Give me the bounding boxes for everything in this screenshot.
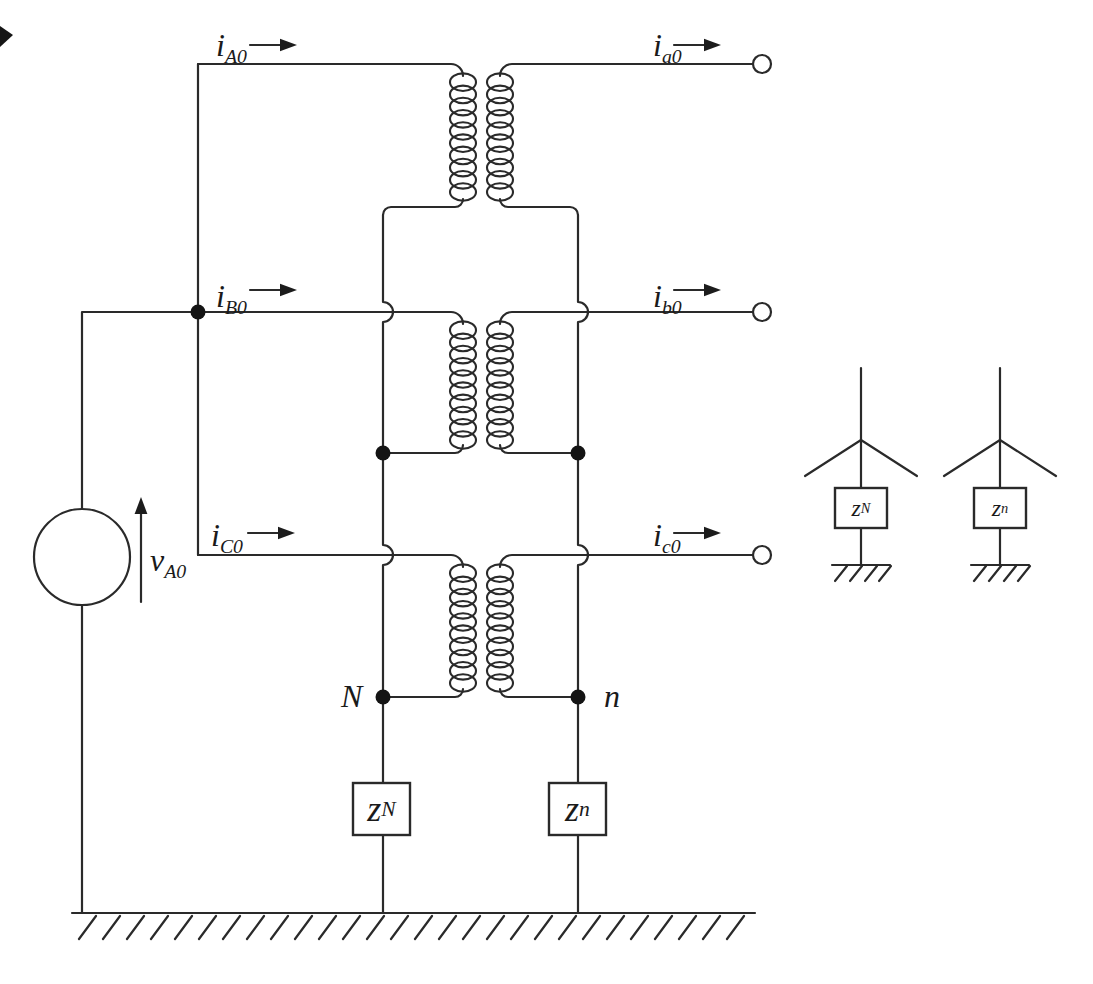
label-i-c0: ic0 <box>653 519 681 551</box>
label-i-b0: ib0 <box>653 280 682 312</box>
circuit-diagram: iA0 ia0 iB0 ib0 iC0 ic0 vA0 N n zN zn zN… <box>0 0 1093 984</box>
secondary-a-bottom-wire <box>500 199 578 215</box>
arrow-ia0-head-icon <box>704 39 721 51</box>
primary-c-bottom-wire <box>383 689 463 697</box>
arrow-iA0-head-icon <box>280 39 297 51</box>
label-v-A0: vA0 <box>150 544 186 576</box>
voltage-source-icon <box>34 509 130 605</box>
wye-symbol-left <box>805 368 917 581</box>
winding-secondary-c-icon <box>487 564 513 691</box>
secondary-b-bottom-wire <box>500 445 578 453</box>
current-arrows <box>135 39 721 602</box>
label-z-n: zn <box>549 783 606 835</box>
wye-symbol-right <box>944 368 1056 581</box>
terminal-c0-icon <box>753 546 771 564</box>
primary-a-bottom-wire <box>383 199 463 215</box>
line-b0 <box>500 312 754 324</box>
voltage-source-branch <box>34 312 198 913</box>
label-wye-z-n: zn <box>974 488 1026 528</box>
winding-primary-b-icon <box>450 321 476 448</box>
label-i-a0: ia0 <box>653 29 682 61</box>
winding-primary-a-icon <box>450 73 476 200</box>
winding-primary-c-icon <box>450 564 476 691</box>
label-node-N: N <box>341 680 362 712</box>
secondary-c-bottom-wire <box>500 689 578 697</box>
junction-dot-icon <box>191 305 206 320</box>
label-i-A0: iA0 <box>216 29 247 61</box>
line-a0 <box>500 64 754 76</box>
wye-right-ground-hatching <box>974 566 1030 581</box>
junction-dot-icon <box>571 446 586 461</box>
winding-bottom-wires <box>383 199 578 697</box>
arrow-iC0-head-icon <box>278 527 295 539</box>
node-N-dot-icon <box>376 690 391 705</box>
label-i-C0: iC0 <box>211 519 243 551</box>
winding-secondary-b-icon <box>487 321 513 448</box>
arrow-vA0-head-icon <box>135 497 148 514</box>
winding-secondary-a-icon <box>487 73 513 200</box>
arrow-iB0-head-icon <box>280 284 297 296</box>
node-n-dot-icon <box>571 690 586 705</box>
label-wye-z-N: zN <box>835 488 887 528</box>
label-z-N: zN <box>353 783 410 835</box>
ground-icon <box>72 913 755 939</box>
label-node-n: n <box>604 680 620 712</box>
wye-left-ground-hatching <box>835 566 891 581</box>
transformer-windings <box>450 73 513 691</box>
terminal-a0-icon <box>753 55 771 73</box>
junction-dots <box>191 305 586 705</box>
primary-b-bottom-wire <box>383 445 463 453</box>
secondary-lines <box>500 55 771 567</box>
source-top-wire <box>82 312 198 509</box>
junction-dot-icon <box>376 446 391 461</box>
arrow-ib0-head-icon <box>704 284 721 296</box>
arrow-ic0-head-icon <box>704 527 721 539</box>
line-c0 <box>500 555 754 567</box>
terminal-b0-icon <box>753 303 771 321</box>
circuit-svg <box>0 0 1093 984</box>
scan-artifact <box>0 26 13 47</box>
ground-hatching <box>79 916 744 939</box>
label-i-B0: iB0 <box>216 280 247 312</box>
